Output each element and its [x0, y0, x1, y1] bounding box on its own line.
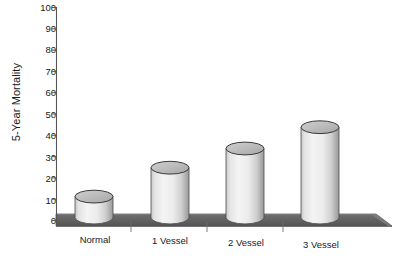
- x-tick-label-1-vessel: 1 Vessel: [139, 235, 201, 246]
- plot-area: [0, 0, 400, 260]
- x-tick-label-normal: Normal: [64, 234, 126, 245]
- chart-container: 5-Year Mortality 100 90 80 70 60 50 40 3…: [0, 0, 400, 260]
- bar-cylinder: [301, 121, 339, 224]
- x-tick-label-3-vessel: 3 Vessel: [290, 239, 352, 250]
- x-tick-label-2-vessel: 2 Vessel: [215, 237, 277, 248]
- y-axis-line: [52, 7, 57, 222]
- bar-cylinder: [226, 142, 264, 224]
- bar-cylinder: [75, 190, 113, 224]
- bar-cylinder: [151, 161, 189, 224]
